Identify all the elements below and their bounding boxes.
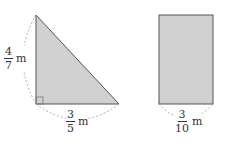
width-denominator: 10 <box>175 122 189 134</box>
base-denominator: 5 <box>67 122 74 134</box>
height-label: 47 m <box>4 46 26 71</box>
height-unit: m <box>16 53 26 64</box>
diagram: 47 m 35 m 310 m <box>0 0 225 148</box>
width-numerator: 3 <box>178 109 187 122</box>
base-label: 35 m <box>66 109 88 134</box>
height-denominator: 7 <box>5 59 12 71</box>
width-label: 310 m <box>175 109 202 134</box>
height-numerator: 4 <box>4 46 13 59</box>
base-numerator: 3 <box>66 109 75 122</box>
right-triangle <box>36 15 119 104</box>
rectangle <box>159 15 213 104</box>
width-unit: m <box>192 116 202 127</box>
base-unit: m <box>78 116 88 127</box>
